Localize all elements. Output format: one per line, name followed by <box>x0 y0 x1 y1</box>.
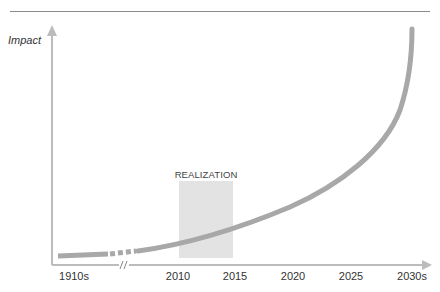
realization-label: REALIZATION <box>175 169 238 180</box>
chart-canvas <box>0 0 440 292</box>
x-tick-label: 2015 <box>223 270 247 282</box>
y-axis-label: Impact <box>8 34 41 46</box>
y-axis-arrow-icon <box>47 25 57 36</box>
x-tick-label: 2020 <box>281 270 305 282</box>
realization-region <box>179 181 233 258</box>
impact-curve-start <box>58 254 108 256</box>
impact-curve-dashed <box>110 251 136 254</box>
x-tick-label: 2030s <box>397 270 427 282</box>
axis-break-icon <box>120 261 123 269</box>
x-tick-label: 2025 <box>339 270 363 282</box>
axis-break-icon <box>124 261 127 269</box>
x-axis-arrow-icon <box>422 260 432 270</box>
x-tick-label: 1910s <box>59 270 89 282</box>
x-tick-label: 2010 <box>166 270 190 282</box>
